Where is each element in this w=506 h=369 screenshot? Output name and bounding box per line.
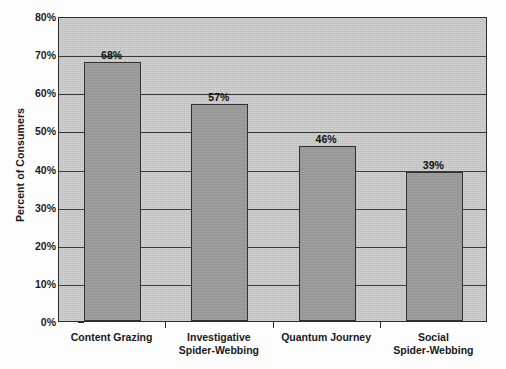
y-axis-tick-label: 70% [26, 50, 56, 61]
y-axis-title-text: Percent of Consumers [14, 108, 26, 222]
y-axis-tick-label: 30% [26, 202, 56, 213]
bar-value-label: 57% [189, 92, 249, 103]
y-axis-tick-label: 60% [26, 88, 56, 99]
x-axis-tick-marks [58, 322, 487, 330]
bar-chart-figure: Percent of Consumers 0%10%20%30%40%50%60… [0, 0, 506, 369]
y-axis-tick-labels: 0%10%20%30%40%50%60%70%80% [26, 17, 56, 322]
y-axis-tick-label: 10% [26, 279, 56, 290]
bar-value-label: 46% [296, 134, 356, 145]
bar-value-label: 68% [82, 50, 142, 61]
bar-value-label: 39% [403, 160, 463, 171]
x-axis-tick-mark [165, 322, 166, 328]
x-axis-tick-mark [273, 322, 274, 328]
x-axis-labels: Content GrazingInvestigativeSpider-Webbi… [58, 331, 487, 367]
y-axis-tick-label: 0% [26, 317, 56, 328]
bar [406, 172, 463, 321]
x-axis-tick-mark [380, 322, 381, 328]
x-axis-label: SocialSpider-Webbing [358, 331, 506, 357]
y-axis-tick-label: 20% [26, 241, 56, 252]
x-axis-label-line: Spider-Webbing [358, 344, 506, 357]
bar [84, 62, 141, 321]
x-axis-label-line: Spider-Webbing [144, 344, 294, 357]
x-axis-label-line: Content Grazing [71, 331, 153, 343]
bar [191, 104, 248, 321]
y-axis-tick-label: 40% [26, 164, 56, 175]
x-axis-label-line: Social [418, 331, 449, 343]
y-axis-tick-label: 50% [26, 126, 56, 137]
y-axis-tick-label: 80% [26, 12, 56, 23]
x-axis-label-line: Investigative [187, 331, 251, 343]
bar [299, 146, 356, 321]
